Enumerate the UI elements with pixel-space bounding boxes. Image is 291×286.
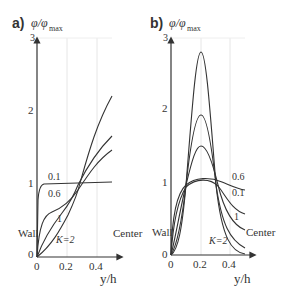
figure: a) φ/φ max 3 2 1 0 0 0.2 0.4 y/h 0.1 0.6… xyxy=(0,0,291,286)
x-tick: 0.2 xyxy=(59,260,73,272)
panel-b-ylabel: φ/φ xyxy=(169,16,186,30)
wall-label: Wall xyxy=(18,227,39,239)
curve-label: K=2 xyxy=(55,234,74,245)
y-tick: 1 xyxy=(162,176,168,188)
x-axis-label: y/h xyxy=(100,271,117,286)
x-tick: 0 xyxy=(34,260,40,272)
x-tick: 0 xyxy=(168,258,174,270)
wall-label: Wall xyxy=(152,226,173,238)
curve-label: 0.6 xyxy=(232,171,245,182)
curve-label: 1 xyxy=(57,213,62,224)
panel-a-ylabel-sub: max xyxy=(49,24,63,33)
curve-label: 0.6 xyxy=(48,188,61,199)
center-label: Center xyxy=(246,226,276,238)
panel-b-label: b) xyxy=(150,15,163,31)
panel-b-ylabel-sub: max xyxy=(187,24,201,33)
curve-label: 1 xyxy=(234,211,239,222)
panel-a: a) φ/φ max 3 2 1 0 0 0.2 0.4 y/h 0.1 0.6… xyxy=(12,15,143,286)
curve-0.6 xyxy=(37,150,112,257)
curve-label: 0.1 xyxy=(232,187,245,198)
curve-mid xyxy=(171,115,245,255)
x-axis-label: y/h xyxy=(234,271,251,286)
y-tick: 0 xyxy=(28,248,34,260)
x-tick: 0.4 xyxy=(222,258,236,270)
panel-b: b) φ/φ max 3 2 1 0 0 0.2 0.4 y/h 0.6 0.1… xyxy=(150,15,276,286)
series-lines xyxy=(171,52,245,255)
y-tick: 2 xyxy=(162,102,168,114)
y-tick: 3 xyxy=(30,32,35,43)
curve-label: 0.1 xyxy=(48,171,61,182)
x-tick: 0.2 xyxy=(193,258,207,270)
panel-a-ylabel: φ/φ xyxy=(31,16,48,30)
panel-a-label: a) xyxy=(12,15,24,31)
y-tick: 3 xyxy=(163,32,168,43)
curve-label: K=2 xyxy=(208,235,227,246)
center-label: Center xyxy=(113,227,143,239)
y-tick: 2 xyxy=(28,104,34,116)
y-tick: 1 xyxy=(28,177,34,189)
